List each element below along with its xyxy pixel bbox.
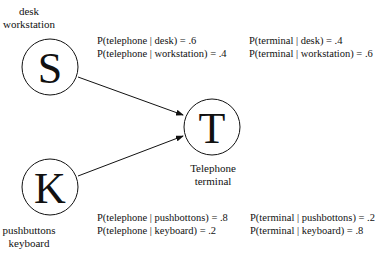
node-s-label: desk workstation xyxy=(0,5,58,31)
prob-s-terminal: P(terminal | desk) = .4 P(terminal | wor… xyxy=(249,34,373,60)
prob-line: P(terminal | pushbottons) = .2 xyxy=(250,211,375,224)
node-k-label-line1: pushbuttons xyxy=(0,224,58,237)
prob-line: P(telephone | workstation) = .4 xyxy=(97,47,227,60)
node-t-label-line2: terminal xyxy=(182,175,244,188)
node-k-label-line2: keyboard xyxy=(0,237,58,250)
edge-s-to-t xyxy=(78,77,183,115)
prob-line: P(telephone | keyboard) = .2 xyxy=(97,224,228,237)
prob-s-telephone: P(telephone | desk) = .6 P(telephone | w… xyxy=(97,34,227,60)
prob-line: P(telephone | desk) = .6 xyxy=(97,34,227,47)
node-k-letter: K xyxy=(34,164,66,213)
node-t-label: Telephone terminal xyxy=(182,162,244,188)
prob-line: P(terminal | keyboard) = .8 xyxy=(250,224,375,237)
node-t-label-line1: Telephone xyxy=(182,162,244,175)
edge-k-to-t xyxy=(78,136,183,176)
prob-line: P(terminal | workstation) = .6 xyxy=(249,47,373,60)
node-t-letter: T xyxy=(199,104,226,153)
node-s-label-line1: desk xyxy=(0,5,58,18)
prob-line: P(telephone | pushbottons) = .8 xyxy=(97,211,228,224)
node-k-label: pushbuttons keyboard xyxy=(0,224,58,250)
node-s: S xyxy=(22,39,78,95)
node-s-label-line2: workstation xyxy=(0,18,58,31)
prob-line: P(terminal | desk) = .4 xyxy=(249,34,373,47)
node-t: T xyxy=(184,99,240,155)
prob-k-telephone: P(telephone | pushbottons) = .8 P(teleph… xyxy=(97,211,228,237)
node-s-letter: S xyxy=(38,44,62,93)
prob-k-terminal: P(terminal | pushbottons) = .2 P(termina… xyxy=(250,211,375,237)
node-k: K xyxy=(22,159,78,215)
